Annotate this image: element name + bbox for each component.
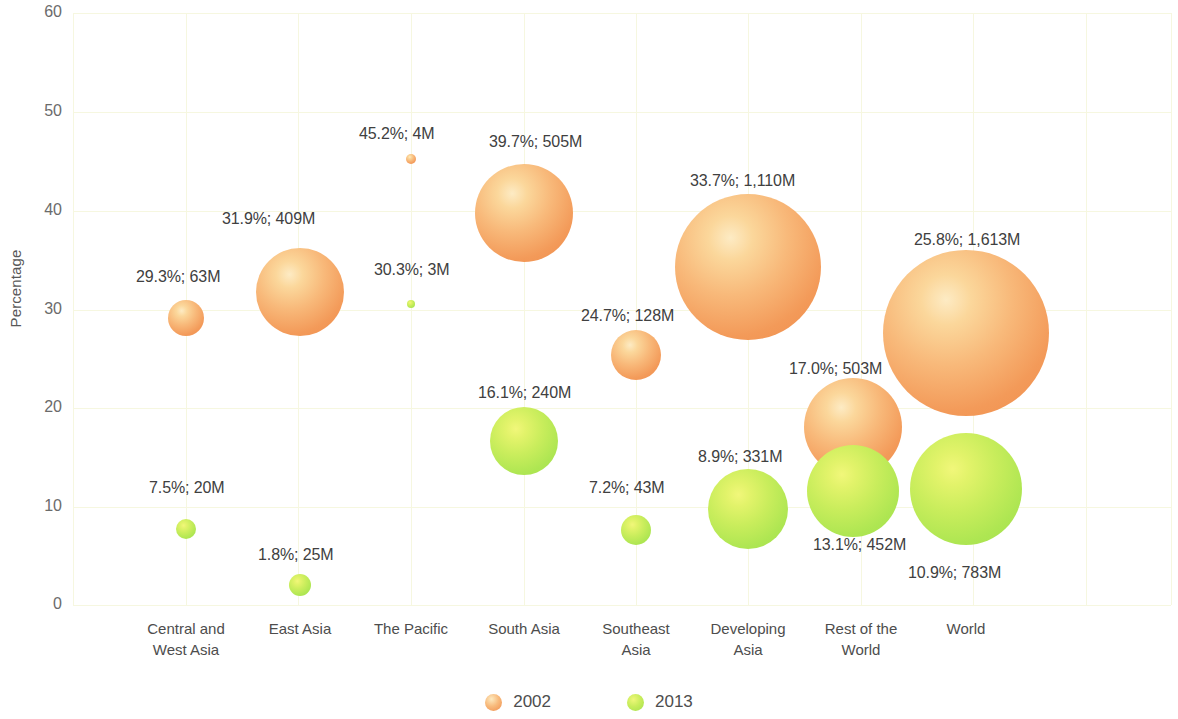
- legend-item-2002[interactable]: 2002: [485, 692, 551, 712]
- bubble-southeast-asia-2013[interactable]: [621, 515, 651, 545]
- gridline-horizontal: [73, 605, 1171, 606]
- bubble-rest-of-world-2013[interactable]: [807, 445, 899, 537]
- gridline-horizontal: [73, 13, 1171, 14]
- legend-swatch-icon: [627, 694, 644, 711]
- data-label-southeast-asia-2002: 24.7%; 128M: [581, 307, 674, 325]
- y-axis-tick-label: 10: [16, 497, 62, 515]
- data-label-developing-asia-2013: 8.9%; 331M: [698, 448, 782, 466]
- bubble-developing-asia-2002[interactable]: [675, 194, 821, 340]
- data-label-central-west-asia-2002: 29.3%; 63M: [136, 268, 220, 286]
- y-axis-tick-label: 30: [16, 300, 62, 318]
- gridline-horizontal: [73, 112, 1171, 113]
- bubble-south-asia-2013[interactable]: [490, 407, 558, 475]
- data-label-southeast-asia-2013: 7.2%; 43M: [589, 479, 665, 497]
- bubble-south-asia-2002[interactable]: [475, 164, 573, 262]
- chart-legend: 20022013: [0, 692, 1178, 712]
- data-label-world-2002: 25.8%; 1,613M: [914, 231, 1020, 249]
- bubble-the-pacific-2002[interactable]: [406, 154, 416, 164]
- x-tick-line2: West Asia: [111, 639, 261, 660]
- bubble-central-west-asia-2013[interactable]: [176, 519, 196, 539]
- y-axis-tick-label: 50: [16, 102, 62, 120]
- bubble-world-2013[interactable]: [910, 433, 1022, 545]
- data-label-south-asia-2002: 39.7%; 505M: [489, 133, 582, 151]
- data-label-east-asia-2002: 31.9%; 409M: [222, 210, 315, 228]
- gridline-vertical: [411, 13, 412, 605]
- data-label-world-2013: 10.9%; 783M: [908, 564, 1001, 582]
- bubble-world-2002[interactable]: [883, 250, 1049, 416]
- data-label-rest-of-world-2002: 17.0%; 503M: [789, 360, 882, 378]
- data-label-south-asia-2013: 16.1%; 240M: [478, 384, 571, 402]
- plot-area: 29.3%; 63M7.5%; 20M31.9%; 409M1.8%; 25M4…: [73, 13, 1171, 605]
- gridline-horizontal: [73, 408, 1171, 409]
- gridline-vertical: [1171, 13, 1172, 605]
- data-label-east-asia-2013: 1.8%; 25M: [258, 546, 334, 564]
- x-axis-tick-label-7: World: [891, 618, 1041, 639]
- x-tick-line2: World: [786, 639, 936, 660]
- bubble-chart: Percentage 6050403020100 29.3%; 63M7.5%;…: [0, 0, 1178, 719]
- legend-swatch-icon: [485, 694, 502, 711]
- y-axis-tick-label: 40: [16, 201, 62, 219]
- data-label-the-pacific-2002: 45.2%; 4M: [359, 125, 435, 143]
- gridline-vertical: [73, 13, 74, 605]
- x-tick-line1: World: [891, 618, 1041, 639]
- y-axis-tick-label: 0: [16, 595, 62, 613]
- gridline-vertical: [524, 13, 525, 605]
- legend-item-2013[interactable]: 2013: [627, 692, 693, 712]
- bubble-east-asia-2013[interactable]: [289, 574, 311, 596]
- legend-label: 2002: [513, 692, 551, 712]
- bubble-developing-asia-2013[interactable]: [708, 469, 788, 549]
- y-axis-tick-label: 60: [16, 3, 62, 21]
- y-axis-ticks: 6050403020100: [0, 13, 62, 605]
- y-axis-tick-label: 20: [16, 398, 62, 416]
- data-label-central-west-asia-2013: 7.5%; 20M: [149, 479, 225, 497]
- data-label-rest-of-world-2013: 13.1%; 452M: [813, 536, 906, 554]
- data-label-developing-asia-2002: 33.7%; 1,110M: [690, 172, 795, 190]
- data-label-the-pacific-2013: 30.3%; 3M: [374, 261, 450, 279]
- gridline-vertical: [1086, 13, 1087, 605]
- bubble-central-west-asia-2002[interactable]: [168, 300, 204, 336]
- bubble-the-pacific-2013[interactable]: [407, 300, 415, 308]
- bubble-southeast-asia-2002[interactable]: [611, 330, 661, 380]
- bubble-east-asia-2002[interactable]: [256, 248, 344, 336]
- legend-label: 2013: [655, 692, 693, 712]
